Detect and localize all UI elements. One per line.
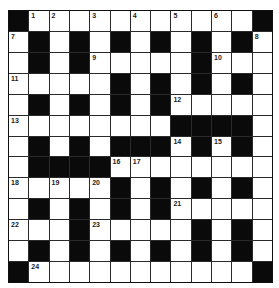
letter-cell[interactable]	[171, 220, 190, 240]
letter-cell[interactable]	[50, 95, 69, 115]
letter-cell[interactable]	[50, 116, 69, 136]
letter-cell[interactable]	[9, 53, 28, 73]
letter-cell[interactable]	[171, 74, 190, 94]
letter-cell[interactable]	[50, 262, 69, 282]
letter-cell[interactable]	[253, 199, 272, 219]
letter-cell[interactable]	[253, 95, 272, 115]
letter-cell[interactable]	[111, 116, 130, 136]
letter-cell[interactable]	[253, 74, 272, 94]
letter-cell[interactable]	[111, 11, 130, 31]
letter-cell[interactable]: 8	[253, 32, 272, 52]
letter-cell[interactable]: 12	[171, 95, 190, 115]
letter-cell[interactable]	[90, 116, 109, 136]
letter-cell[interactable]	[253, 241, 272, 261]
letter-cell[interactable]	[232, 157, 251, 177]
letter-cell[interactable]	[212, 199, 231, 219]
letter-cell[interactable]	[70, 262, 89, 282]
letter-cell[interactable]	[192, 199, 211, 219]
letter-cell[interactable]	[151, 220, 170, 240]
letter-cell[interactable]: 1	[29, 11, 48, 31]
letter-cell[interactable]	[9, 137, 28, 157]
letter-cell[interactable]	[232, 11, 251, 31]
letter-cell[interactable]	[192, 157, 211, 177]
letter-cell[interactable]	[171, 178, 190, 198]
letter-cell[interactable]	[253, 157, 272, 177]
letter-cell[interactable]	[131, 178, 150, 198]
letter-cell[interactable]	[253, 178, 272, 198]
letter-cell[interactable]	[9, 241, 28, 261]
letter-cell[interactable]	[131, 262, 150, 282]
letter-cell[interactable]	[253, 137, 272, 157]
letter-cell[interactable]: 20	[90, 178, 109, 198]
letter-cell[interactable]	[171, 241, 190, 261]
letter-cell[interactable]	[50, 220, 69, 240]
letter-cell[interactable]	[29, 178, 48, 198]
letter-cell[interactable]	[131, 199, 150, 219]
letter-cell[interactable]	[131, 74, 150, 94]
letter-cell[interactable]	[131, 241, 150, 261]
letter-cell[interactable]	[212, 178, 231, 198]
letter-cell[interactable]	[232, 53, 251, 73]
letter-cell[interactable]: 7	[9, 32, 28, 52]
letter-cell[interactable]	[212, 32, 231, 52]
letter-cell[interactable]: 21	[171, 199, 190, 219]
letter-cell[interactable]	[192, 11, 211, 31]
letter-cell[interactable]	[70, 11, 89, 31]
letter-cell[interactable]	[212, 157, 231, 177]
letter-cell[interactable]	[232, 95, 251, 115]
letter-cell[interactable]	[29, 74, 48, 94]
letter-cell[interactable]	[151, 116, 170, 136]
letter-cell[interactable]	[232, 199, 251, 219]
letter-cell[interactable]	[151, 11, 170, 31]
letter-cell[interactable]	[111, 220, 130, 240]
letter-cell[interactable]	[253, 220, 272, 240]
letter-cell[interactable]: 6	[212, 11, 231, 31]
letter-cell[interactable]	[253, 53, 272, 73]
letter-cell[interactable]: 22	[9, 220, 28, 240]
letter-cell[interactable]	[111, 53, 130, 73]
letter-cell[interactable]: 17	[131, 157, 150, 177]
letter-cell[interactable]	[253, 116, 272, 136]
letter-cell[interactable]	[212, 241, 231, 261]
letter-cell[interactable]	[50, 241, 69, 261]
letter-cell[interactable]: 16	[111, 157, 130, 177]
letter-cell[interactable]	[9, 95, 28, 115]
letter-cell[interactable]	[131, 53, 150, 73]
letter-cell[interactable]	[29, 116, 48, 136]
letter-cell[interactable]	[50, 53, 69, 73]
letter-cell[interactable]	[232, 262, 251, 282]
letter-cell[interactable]	[131, 95, 150, 115]
letter-cell[interactable]: 3	[90, 11, 109, 31]
letter-cell[interactable]: 23	[90, 220, 109, 240]
letter-cell[interactable]	[171, 262, 190, 282]
letter-cell[interactable]	[171, 53, 190, 73]
letter-cell[interactable]	[131, 116, 150, 136]
letter-cell[interactable]	[131, 32, 150, 52]
letter-cell[interactable]	[9, 157, 28, 177]
letter-cell[interactable]	[111, 262, 130, 282]
letter-cell[interactable]	[29, 220, 48, 240]
letter-cell[interactable]	[171, 32, 190, 52]
letter-cell[interactable]: 18	[9, 178, 28, 198]
letter-cell[interactable]	[90, 199, 109, 219]
letter-cell[interactable]	[50, 199, 69, 219]
letter-cell[interactable]: 11	[9, 74, 28, 94]
letter-cell[interactable]	[90, 95, 109, 115]
letter-cell[interactable]: 4	[131, 11, 150, 31]
letter-cell[interactable]	[212, 95, 231, 115]
letter-cell[interactable]	[90, 74, 109, 94]
letter-cell[interactable]	[212, 74, 231, 94]
letter-cell[interactable]	[192, 262, 211, 282]
letter-cell[interactable]	[151, 262, 170, 282]
letter-cell[interactable]: 14	[171, 137, 190, 157]
letter-cell[interactable]: 5	[171, 11, 190, 31]
letter-cell[interactable]: 2	[50, 11, 69, 31]
letter-cell[interactable]	[151, 53, 170, 73]
letter-cell[interactable]: 9	[90, 53, 109, 73]
letter-cell[interactable]	[90, 262, 109, 282]
letter-cell[interactable]	[131, 220, 150, 240]
letter-cell[interactable]	[70, 178, 89, 198]
letter-cell[interactable]	[50, 137, 69, 157]
letter-cell[interactable]	[171, 157, 190, 177]
letter-cell[interactable]: 10	[212, 53, 231, 73]
